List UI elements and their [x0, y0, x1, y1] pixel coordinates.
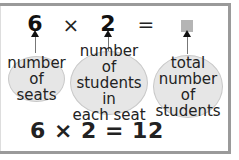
- solved-equation: 6 × 2 = 12: [30, 118, 164, 143]
- label-number-of-seats: number of seats: [8, 56, 65, 102]
- label-students-in-each-seat: number of students in each seat: [70, 51, 148, 115]
- equals-sign: =: [137, 13, 155, 35]
- label-line: number: [7, 55, 66, 71]
- label-line: number of: [71, 43, 147, 75]
- label-line: number of: [154, 71, 222, 103]
- label-line: total: [154, 55, 222, 71]
- arrow-up-icon: [35, 36, 36, 53]
- arrow-up-icon: [187, 36, 188, 54]
- label-line: students: [154, 103, 222, 119]
- label-line: of seats: [7, 71, 66, 103]
- label-line: students in: [71, 75, 147, 107]
- label-total-number-of-students: total number of students: [153, 55, 223, 118]
- times-sign: ×: [62, 14, 80, 36]
